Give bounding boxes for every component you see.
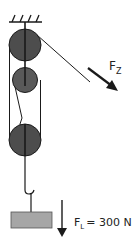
load-weight <box>11 212 52 228</box>
fixed-pulley-top <box>9 29 41 61</box>
load-force-label: FL= 300 N <box>74 216 132 231</box>
ceiling-mount <box>9 15 42 22</box>
movable-pulley-bottom <box>9 124 41 156</box>
load-force-arrow-icon <box>57 200 67 237</box>
pulley-diagram: FZ FL= 300 N <box>0 0 138 246</box>
movable-pulley-middle <box>13 68 38 93</box>
load-hook-icon <box>25 190 34 194</box>
pull-force-label: FZ <box>109 59 122 76</box>
